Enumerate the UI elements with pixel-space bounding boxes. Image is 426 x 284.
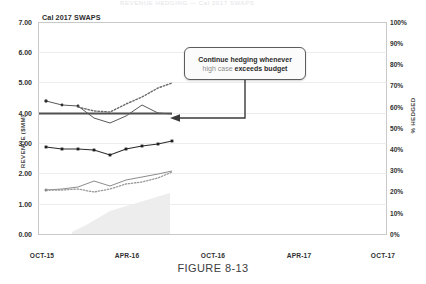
callout-line-1: Continue hedging whenever	[198, 56, 292, 63]
callout-box: Continue hedging whenever high case exce…	[184, 47, 306, 80]
figure-caption: FIGURE 8-13	[0, 262, 426, 274]
figure-container: REVENUE HEDGING — Cal 2017 SWAPS Cal 201…	[0, 0, 426, 284]
callout-line-2-bold: exceeds	[235, 65, 263, 72]
callout-line-2: high case exceeds budget	[203, 65, 288, 72]
callout-line-2-rest: budget	[262, 65, 287, 72]
callout-line-2-light: high case	[203, 65, 235, 72]
chart-plot-svg	[0, 0, 426, 284]
